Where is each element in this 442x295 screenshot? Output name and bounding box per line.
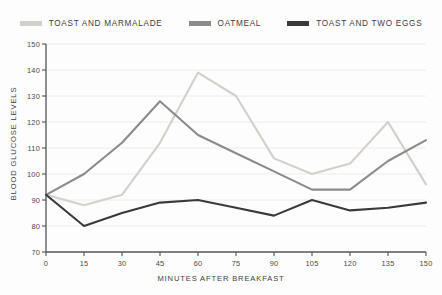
- x-axis-tick-label: 150: [420, 259, 433, 268]
- plot-svg: [46, 44, 426, 252]
- legend-label: TOAST AND TWO EGGS: [316, 20, 422, 28]
- legend-item[interactable]: TOAST AND TWO EGGS: [287, 20, 422, 28]
- y-axis-tick-label: 140: [27, 66, 40, 75]
- x-axis-title: MINUTES AFTER BREAKFAST: [0, 274, 442, 283]
- y-axis-title: BLOOD GLUCOSE LEVELS: [9, 44, 18, 244]
- series-line-1: [46, 73, 426, 206]
- legend-swatch-icon: [287, 21, 309, 26]
- y-axis-tick-label: 110: [28, 144, 40, 153]
- y-axis-tick-label: 80: [31, 222, 40, 231]
- x-axis-tick-label: 60: [194, 259, 203, 268]
- x-axis-tick-label: 75: [232, 259, 241, 268]
- x-axis-tick-label: 135: [382, 259, 395, 268]
- x-axis-tick-label: 120: [344, 259, 357, 268]
- y-axis-tick-label: 130: [27, 92, 40, 101]
- legend-item[interactable]: TOAST AND MARMALADE: [20, 20, 163, 28]
- x-axis-tick-label: 15: [80, 259, 89, 268]
- legend-label: OATMEAL: [218, 20, 262, 28]
- x-axis-tick-label: 0: [44, 259, 48, 268]
- legend-swatch-icon: [20, 21, 42, 26]
- x-axis-tick-label: 30: [118, 259, 127, 268]
- x-axis-tick-label: 90: [270, 259, 279, 268]
- legend-label: TOAST AND MARMALADE: [49, 20, 163, 28]
- chart-legend: TOAST AND MARMALADEOATMEALTOAST AND TWO …: [0, 16, 442, 32]
- y-axis-tick-label: 120: [27, 118, 40, 127]
- y-axis-tick-label: 70: [31, 248, 40, 257]
- x-axis-tick-label: 105: [306, 259, 319, 268]
- y-axis-tick-label: 150: [27, 40, 40, 49]
- y-axis-tick-label: 90: [31, 196, 40, 205]
- x-axis-tick-label: 45: [156, 259, 165, 268]
- plot-area: 7080901001101201301401500153045607590105…: [46, 44, 426, 252]
- chart-root: TOAST AND MARMALADEOATMEALTOAST AND TWO …: [0, 0, 442, 295]
- legend-item[interactable]: OATMEAL: [189, 20, 262, 28]
- y-axis-tick-label: 100: [27, 170, 40, 179]
- legend-swatch-icon: [189, 21, 211, 26]
